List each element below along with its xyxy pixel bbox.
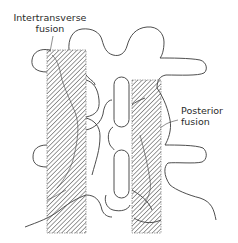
spinous-process-upper <box>114 77 129 127</box>
spinous-process-lower <box>114 150 129 198</box>
intertransverse-label-line1: Intertransverse <box>12 12 88 23</box>
intertransverse-leader-line <box>50 36 53 52</box>
intertransverse-label-line2: fusion <box>12 23 88 34</box>
middle-right-transverse-process <box>165 145 206 185</box>
intertransverse-fusion-label: Intertransverse fusion <box>12 12 88 34</box>
upper-right-transverse-process <box>157 58 206 88</box>
left-mid-curve <box>86 118 100 175</box>
posterior-leader-line <box>160 120 178 128</box>
posterior-label-line2: fusion <box>181 116 237 127</box>
lower-right-body <box>170 185 216 220</box>
spinous-mid-link <box>108 127 114 150</box>
middle-left-edge <box>86 80 99 117</box>
lower-left-body <box>86 195 112 217</box>
middle-left-transverse-process <box>33 145 47 167</box>
posterior-label-line1: Posterior <box>181 105 237 116</box>
intertransverse-fusion-region <box>47 50 86 233</box>
posterior-fusion-region <box>132 80 161 233</box>
posterior-fusion-label: Posterior fusion <box>181 105 237 127</box>
